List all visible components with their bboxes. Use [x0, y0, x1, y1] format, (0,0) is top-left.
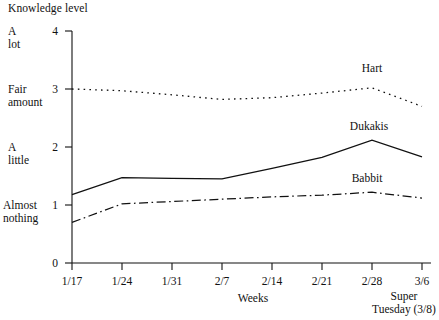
y-axis-ticks — [65, 31, 72, 263]
y-category-fair-amount-line2: amount — [8, 96, 43, 109]
y-tick-label-0: 0 — [44, 257, 58, 269]
x-tick-label-5: 2/21 — [312, 275, 332, 288]
y-category-a-lot-line2: lot — [8, 38, 20, 51]
series-label-babbit: Babbit — [352, 172, 383, 185]
x-axis-title: Weeks — [238, 292, 268, 305]
x-tick-label-6: 2/28 — [362, 275, 382, 288]
y-category-a-lot-line1: A — [8, 25, 16, 38]
series-line-dukakis — [72, 140, 422, 195]
y-tick-label-1: 1 — [44, 199, 58, 211]
y-category-fair-amount-line1: Fair — [8, 83, 27, 96]
series-label-dukakis: Dukakis — [350, 120, 388, 133]
y-category-almost-nothing-line2: nothing — [3, 212, 38, 225]
x-tick-label-3: 2/7 — [215, 275, 230, 288]
y-category-a-little-line2: little — [8, 154, 29, 167]
x-tick-label-4: 2/14 — [262, 275, 282, 288]
super-tuesday-note-line1: Super — [391, 290, 418, 304]
x-axis-ticks — [72, 263, 422, 270]
y-tick-label-3: 3 — [44, 83, 58, 95]
y-category-a-little-line1: A — [8, 141, 16, 154]
chart-plot-area — [0, 0, 439, 320]
series-line-babbit — [72, 192, 422, 222]
y-tick-label-4: 4 — [44, 25, 58, 37]
x-tick-label-0: 1/17 — [62, 275, 82, 288]
x-tick-label-1: 1/24 — [112, 275, 132, 288]
x-tick-label-2: 1/31 — [162, 275, 182, 288]
super-tuesday-note-line2: Tuesday (3/8) — [372, 303, 436, 317]
y-category-almost-nothing-line1: Almost — [3, 199, 37, 212]
x-tick-label-7: 3/6 — [415, 275, 430, 288]
series-line-hart — [72, 88, 422, 107]
y-tick-label-2: 2 — [44, 141, 58, 153]
knowledge-level-line-chart: Knowledge level 4 3 — [0, 0, 439, 320]
series-label-hart: Hart — [362, 62, 382, 75]
series-lines — [72, 88, 422, 223]
